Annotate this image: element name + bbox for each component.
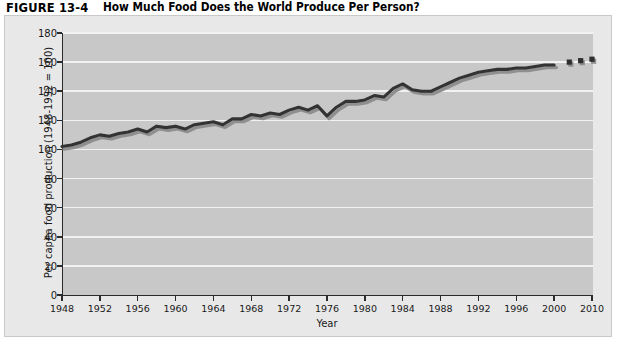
figure-panel	[4, 15, 612, 337]
figure-title: How Much Food Does the World Produce Per…	[103, 0, 420, 14]
figure-caption: FIGURE 13-4 How Much Food Does the World…	[6, 0, 447, 14]
figure-root: FIGURE 13-4 How Much Food Does the World…	[0, 0, 620, 345]
figure-number: FIGURE 13-4	[6, 0, 88, 15]
